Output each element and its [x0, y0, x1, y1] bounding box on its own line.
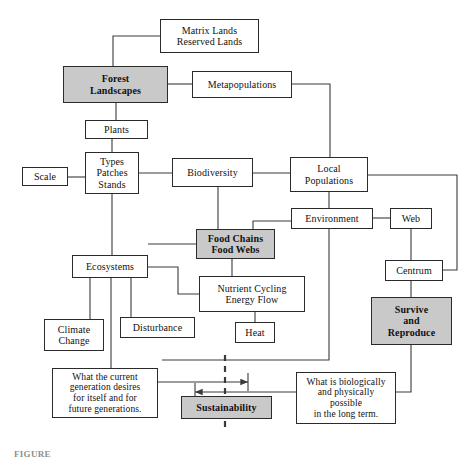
node-types-patches-stands: TypesPatchesStands — [85, 152, 139, 194]
node-environment: Environment — [291, 208, 373, 229]
node-label-disturbance: Disturbance — [131, 322, 184, 333]
node-biodiversity: Biodiversity — [172, 158, 253, 187]
node-label-biodiversity: Biodiversity — [185, 167, 240, 178]
node-biologically-possible: What is biologicallyand physicallypossib… — [296, 372, 396, 424]
node-label-survive-reproduce: SurviveandReproduce — [386, 304, 437, 338]
node-label-web: Web — [400, 213, 422, 224]
connector-ecosystems-to-nutrient — [148, 267, 199, 294]
node-local-populations: LocalPopulations — [290, 157, 368, 192]
node-ecosystems: Ecosystems — [72, 255, 148, 278]
node-web: Web — [390, 208, 432, 229]
node-climate-change: ClimateChange — [44, 319, 104, 351]
node-label-food-chains-webs: Food ChainsFood Webs — [206, 233, 265, 255]
figure-canvas: Matrix LandsReserved LandsForestLandscap… — [0, 0, 476, 464]
connector-environment-to-foodchains — [253, 221, 291, 229]
node-label-sustainability: Sustainability — [194, 402, 258, 413]
connector-metapop-to-local — [292, 84, 330, 157]
node-label-environment: Environment — [303, 213, 360, 224]
node-scale: Scale — [22, 167, 68, 186]
node-label-metapopulations: Metapopulations — [206, 79, 279, 90]
node-label-ecosystems: Ecosystems — [84, 261, 136, 272]
node-sustainability: Sustainability — [181, 396, 272, 419]
node-label-current-generation: What the currentgeneration desiresfor it… — [66, 372, 143, 415]
node-label-local-populations: LocalPopulations — [303, 163, 355, 185]
node-metapopulations: Metapopulations — [192, 71, 292, 98]
node-centrum: Centrum — [385, 260, 443, 281]
node-matrix-lands: Matrix LandsReserved Lands — [160, 19, 259, 53]
node-survive-reproduce: SurviveandReproduce — [371, 297, 452, 345]
node-label-heat: Heat — [243, 327, 266, 338]
node-heat: Heat — [235, 322, 275, 343]
node-label-biologically-possible: What is biologicallyand physicallypossib… — [304, 377, 387, 420]
node-label-types-patches-stands: TypesPatchesStands — [94, 156, 129, 190]
node-label-scale: Scale — [32, 171, 58, 182]
node-label-centrum: Centrum — [394, 265, 434, 276]
node-current-generation: What the currentgeneration desiresfor it… — [52, 368, 158, 418]
node-label-matrix-lands: Matrix LandsReserved Lands — [175, 25, 245, 47]
node-plants: Plants — [85, 120, 148, 139]
node-label-plants: Plants — [102, 124, 131, 135]
node-label-nutrient-cycling: Nutrient CyclingEnergy Flow — [215, 283, 288, 305]
connector-matrix-to-forest — [113, 36, 160, 66]
node-disturbance: Disturbance — [120, 317, 195, 338]
figure-caption: FIGURE — [14, 449, 51, 459]
node-label-forest-landscapes: ForestLandscapes — [88, 73, 143, 95]
node-food-chains-webs: Food ChainsFood Webs — [196, 229, 275, 259]
connector-survive-to-biological — [396, 345, 411, 392]
node-forest-landscapes: ForestLandscapes — [63, 66, 168, 103]
node-label-climate-change: ClimateChange — [56, 324, 92, 346]
node-nutrient-cycling: Nutrient CyclingEnergy Flow — [199, 276, 305, 312]
